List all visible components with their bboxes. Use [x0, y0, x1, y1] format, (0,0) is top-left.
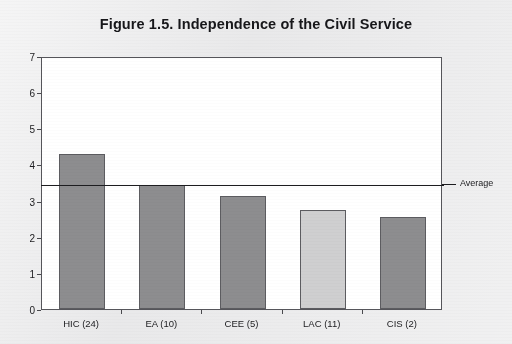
plot-area — [41, 57, 442, 310]
y-axis-tick-mark — [37, 274, 41, 275]
average-line-label: Average — [460, 178, 493, 188]
y-axis-tick-label: 1 — [9, 268, 35, 279]
bar — [220, 196, 266, 309]
x-axis-tick-mark — [121, 310, 122, 314]
x-axis-tick-mark — [362, 310, 363, 314]
y-axis-tick-mark — [37, 57, 41, 58]
average-line-connector — [442, 184, 456, 185]
y-axis-tick-label: 0 — [9, 305, 35, 316]
y-axis-tick-label: 2 — [9, 232, 35, 243]
x-axis-tick-mark — [282, 310, 283, 314]
y-axis-tick-mark — [37, 165, 41, 166]
scanned-page: Figure 1.5. Independence of the Civil Se… — [0, 0, 512, 344]
y-axis-tick-mark — [37, 93, 41, 94]
y-axis-tick-mark — [37, 202, 41, 203]
bar — [380, 217, 426, 309]
y-axis-tick-mark — [37, 310, 41, 311]
y-axis-tick-mark — [37, 238, 41, 239]
average-line — [41, 185, 444, 186]
y-axis-tick-label: 3 — [9, 196, 35, 207]
figure-title: Figure 1.5. Independence of the Civil Se… — [0, 16, 512, 32]
y-axis-tick-label: 6 — [9, 88, 35, 99]
bars-layer — [42, 58, 441, 309]
bar — [59, 154, 105, 309]
bar — [300, 210, 346, 309]
x-axis-tick-mark — [201, 310, 202, 314]
y-axis-tick-label: 7 — [9, 52, 35, 63]
y-axis-tick-label: 5 — [9, 124, 35, 135]
y-axis-tick-mark — [37, 129, 41, 130]
x-axis-tick-label: CIS (2) — [342, 318, 462, 329]
y-axis-tick-label: 4 — [9, 160, 35, 171]
bar — [139, 185, 185, 309]
